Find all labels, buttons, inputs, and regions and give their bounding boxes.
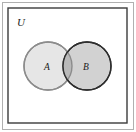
set-b-label: B bbox=[83, 62, 89, 72]
universal-set-label: U bbox=[17, 16, 26, 28]
venn-diagram-figure: U A B bbox=[0, 0, 136, 132]
set-a-label: A bbox=[43, 62, 50, 72]
venn-diagram-canvas: U A B bbox=[0, 0, 136, 132]
